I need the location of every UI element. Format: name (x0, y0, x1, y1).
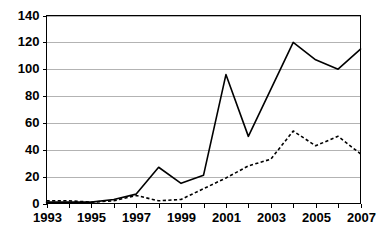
y-tick-label-20: 20 (25, 169, 39, 184)
series-line-solid (47, 42, 361, 202)
x-tick-label-1995: 1995 (77, 210, 106, 225)
gridlines-group (47, 17, 361, 178)
y-tick-label-40: 40 (25, 142, 39, 157)
x-tick-label-2003: 2003 (257, 210, 286, 225)
x-tick-label-2005: 2005 (302, 210, 331, 225)
x-tick-label-1999: 1999 (167, 210, 196, 225)
chart-plot-area: 020406080100120140 199319951997199920012… (0, 0, 383, 238)
y-tick-label-60: 60 (25, 115, 39, 130)
line-chart: 020406080100120140 199319951997199920012… (0, 0, 383, 238)
x-axis-tick-labels-group: 19931995199719992001200320052007 (33, 210, 376, 225)
x-tick-label-1997: 1997 (122, 210, 151, 225)
x-tick-label-2001: 2001 (212, 210, 241, 225)
y-tick-label-120: 120 (18, 34, 40, 49)
y-tick-label-100: 100 (18, 61, 40, 76)
y-tick-label-0: 0 (32, 196, 39, 211)
series-line-dashed (47, 131, 361, 202)
y-tick-label-140: 140 (18, 8, 40, 23)
y-axis-tick-labels-group: 020406080100120140 (18, 8, 40, 211)
x-tick-label-2007: 2007 (347, 210, 376, 225)
y-tick-label-80: 80 (25, 88, 39, 103)
x-tick-label-1993: 1993 (33, 210, 62, 225)
